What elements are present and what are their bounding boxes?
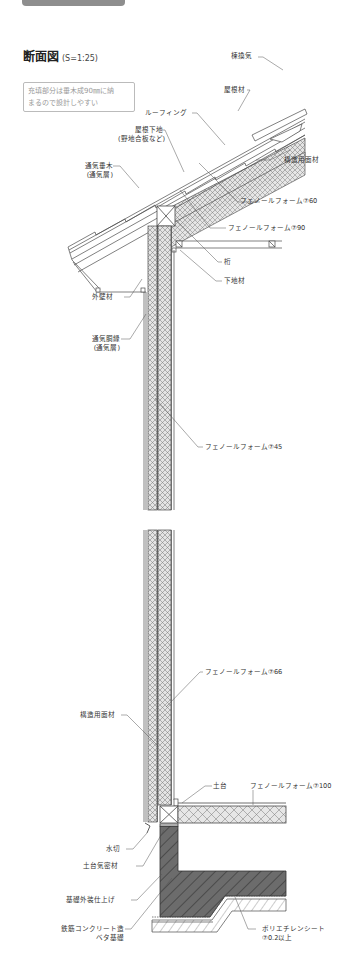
dodai-floor	[160, 803, 286, 823]
label-yaneshitaji-2: (野地合板など)	[118, 135, 163, 144]
label-tsukidaruki-1: 通気垂木	[78, 162, 113, 171]
label-kiso-gaiso: 基礎外装仕上げ	[66, 896, 115, 905]
label-dodai: 土台	[213, 782, 227, 791]
label-phenol-90: フェノールフォーム⑦90	[228, 224, 305, 233]
wall-assembly-upper	[144, 226, 174, 510]
wall-assembly-lower	[144, 530, 178, 822]
label-tsukidaruki: 通気垂木 (通気層)	[78, 162, 113, 179]
label-poly-2: ⑦0.2以上	[262, 934, 325, 943]
label-dodai-kimitsu: 土台気密材	[83, 862, 118, 871]
keta-beam	[157, 206, 175, 226]
ceiling-joist	[172, 241, 282, 252]
label-polyethylene: ポリエチレンシート ⑦0.2以上	[262, 925, 325, 942]
label-kozomenzai-wall: 構造用面材	[80, 711, 115, 720]
label-mizukiri: 水切	[106, 845, 120, 854]
label-tsukidaruki-2: (通気層)	[78, 171, 113, 180]
label-munekanki: 棟換気	[231, 52, 252, 61]
mizukiri	[145, 823, 150, 833]
label-poly-1: ポリエチレンシート	[262, 925, 325, 934]
label-yanezai: 屋根材	[224, 86, 245, 95]
label-phenol-45: フェノールフォーム⑦45	[205, 443, 282, 452]
label-concrete-1: 鉄筋コンクリート造	[56, 925, 124, 934]
label-phenol-66: フェノールフォーム⑦66	[205, 668, 282, 677]
label-phenol-60: フェノールフォーム⑦60	[240, 197, 317, 206]
label-gaiheki: 外壁材	[92, 293, 113, 302]
label-kozomenzai-roof: 構造用面材	[284, 156, 319, 165]
label-yaneshitaji-1: 屋根下地	[118, 126, 163, 135]
label-concrete-2: ベタ基礎	[56, 934, 124, 943]
label-concrete: 鉄筋コンクリート造 ベタ基礎	[56, 925, 124, 942]
label-shitajizai: 下地材	[224, 277, 245, 286]
section-drawing	[0, 0, 363, 979]
label-keta: 桁	[224, 258, 231, 267]
label-phenol-100: フェノールフォーム⑦100	[250, 782, 332, 791]
label-tsukidobuchi: 通気胴縁 (通気層)	[80, 335, 120, 352]
label-yaneshitaji: 屋根下地 (野地合板など)	[118, 126, 163, 143]
label-roofing: ルーフィング	[145, 109, 187, 118]
label-tsukidobuchi-2: (通気層)	[80, 344, 120, 353]
label-tsukidobuchi-1: 通気胴縁	[80, 335, 120, 344]
